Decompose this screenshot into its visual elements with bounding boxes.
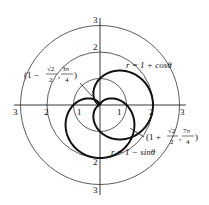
tick-top-3: 3 (93, 15, 98, 25)
svg-text:,: , (179, 132, 181, 142)
tick-top-2: 2 (93, 42, 98, 52)
svg-text:): ) (195, 132, 198, 142)
svg-text:7π: 7π (183, 127, 191, 135)
svg-text:√2: √2 (47, 65, 55, 73)
svg-text:): ) (74, 70, 77, 80)
svg-text:4: 4 (186, 138, 190, 146)
svg-text:(1 −: (1 − (24, 70, 39, 80)
tick-right-1: 1 (117, 107, 122, 117)
svg-text:(1 +: (1 + (146, 132, 161, 142)
annotation-point-2: (1 + √2 2 , 7π 4 ) (146, 127, 198, 146)
svg-text:,: , (58, 70, 60, 80)
svg-text:2: 2 (170, 138, 174, 146)
polar-diagram: 3 2 1 1 2 3 3 2 2 3 r = 1 + cosθ r = 1 −… (0, 0, 209, 205)
tick-left-3: 3 (13, 107, 18, 117)
curve-label-cos: r = 1 + cosθ (126, 60, 172, 70)
tick-bottom-3: 3 (93, 185, 98, 195)
svg-text:2: 2 (49, 76, 53, 84)
tick-bottom-2: 2 (93, 157, 98, 167)
annotation-point-1: (1 − √2 2 , 3π 4 ) (24, 65, 77, 84)
leader-line-p1 (80, 83, 92, 96)
svg-text:4: 4 (65, 76, 69, 84)
svg-text:3π: 3π (62, 65, 70, 73)
tick-right-2: 2 (149, 107, 154, 117)
curve-label-sin: r = 1 − sinθ (111, 147, 156, 157)
svg-text:√2: √2 (168, 127, 176, 135)
tick-right-3: 3 (180, 107, 185, 117)
tick-left-2: 2 (44, 107, 49, 117)
tick-left-1: 1 (77, 107, 82, 117)
